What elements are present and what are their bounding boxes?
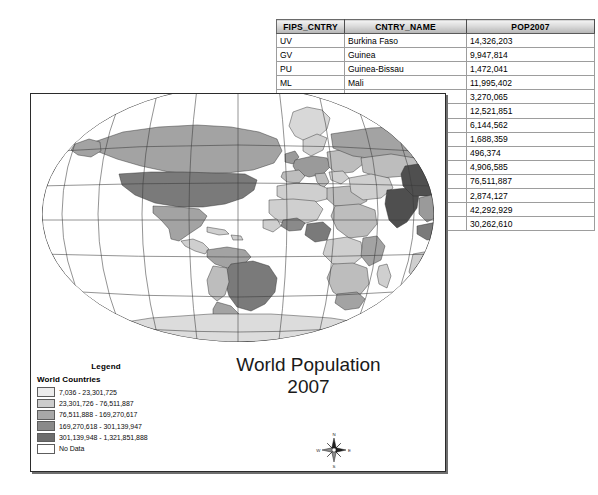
map-title-line-1: World Population — [201, 354, 416, 376]
cell-pop2007[interactable]: 11,995,402 — [467, 76, 595, 90]
cell-pop2007[interactable]: 496,374 — [467, 146, 595, 160]
country-australia — [409, 250, 445, 286]
legend-class-row: 169,270,618 - 301,139,947 — [36, 421, 201, 431]
map-title-line-2: 2007 — [201, 376, 416, 398]
column-header-pop2007[interactable]: POP2007 — [467, 20, 595, 34]
cell-fips-cntry[interactable]: UV — [277, 34, 345, 48]
cell-pop2007[interactable]: 4,906,585 — [467, 160, 595, 174]
cell-fips-cntry[interactable]: GV — [277, 48, 345, 62]
legend-class-row: 76,511,888 - 169,270,617 — [36, 410, 201, 420]
compass-star — [322, 438, 346, 462]
cell-fips-cntry[interactable]: ML — [277, 76, 345, 90]
cell-cntry-name[interactable]: Guinea-Bissau — [345, 62, 467, 76]
legend-label: 7,036 - 23,301,725 — [59, 389, 117, 396]
legend-label: No Data — [59, 445, 84, 452]
legend-class-row: No Data — [36, 444, 201, 454]
legend-swatch — [37, 399, 55, 409]
legend-swatch — [37, 421, 55, 431]
legend-label: 301,139,948 - 1,321,851,888 — [59, 434, 148, 441]
country-southeast-asia — [419, 194, 443, 222]
world-map-graphic[interactable] — [31, 94, 445, 349]
cell-pop2007[interactable]: 9,947,814 — [467, 48, 595, 62]
cell-cntry-name[interactable]: Mali — [345, 76, 467, 90]
table-row[interactable]: UVBurkina Faso14,326,203 — [277, 34, 595, 48]
legend-label: 76,511,888 - 169,270,617 — [59, 411, 137, 418]
country-china — [401, 162, 445, 196]
compass-label-west: W — [316, 448, 321, 453]
legend-class-row: 23,301,726 - 76,511,887 — [36, 398, 201, 408]
legend-label: 23,301,726 - 76,511,887 — [59, 400, 134, 407]
legend-class-row: 7,036 - 23,301,725 — [36, 387, 201, 397]
legend-swatch — [37, 387, 55, 397]
legend-swatch — [37, 444, 55, 454]
cell-pop2007[interactable]: 1,688,359 — [467, 132, 595, 146]
legend-label: 169,270,618 - 301,139,947 — [59, 423, 142, 430]
column-header-cntry-name[interactable]: CNTRY_NAME — [345, 20, 467, 34]
cell-pop2007[interactable]: 6,144,562 — [467, 118, 595, 132]
legend-class-row: 301,139,948 - 1,321,851,888 — [36, 433, 201, 443]
cell-pop2007[interactable]: 14,326,203 — [467, 34, 595, 48]
table-row[interactable]: PUGuinea-Bissau1,472,041 — [277, 62, 595, 76]
cell-pop2007[interactable]: 76,511,887 — [467, 174, 595, 188]
cell-pop2007[interactable]: 42,292,929 — [467, 203, 595, 217]
table-row[interactable]: MLMali11,995,402 — [277, 76, 595, 90]
map-title: World Population 2007 — [201, 354, 416, 398]
country-japan — [435, 166, 445, 184]
legend-swatch — [37, 433, 55, 443]
cell-cntry-name[interactable]: Burkina Faso — [345, 34, 467, 48]
cell-pop2007[interactable]: 12,521,851 — [467, 104, 595, 118]
map-legend: Legend World Countries 7,036 - 23,301,72… — [36, 362, 201, 455]
compass-label-south: S — [333, 464, 336, 469]
legend-layer-name: World Countries — [37, 375, 201, 384]
cell-pop2007[interactable]: 30,262,610 — [467, 217, 595, 231]
cell-pop2007[interactable]: 3,270,065 — [467, 90, 595, 104]
map-layout-frame[interactable]: Legend World Countries 7,036 - 23,301,72… — [30, 93, 446, 472]
compass-rose-icon: N S E W — [314, 430, 354, 470]
table-header-row: FIPS_CNTRY CNTRY_NAME POP2007 — [277, 20, 595, 34]
cell-cntry-name[interactable]: Guinea — [345, 48, 467, 62]
compass-label-north: N — [332, 432, 335, 437]
compass-label-east: E — [348, 448, 351, 453]
table-row[interactable]: GVGuinea9,947,814 — [277, 48, 595, 62]
legend-heading: Legend — [40, 362, 172, 371]
cell-fips-cntry[interactable]: PU — [277, 62, 345, 76]
column-header-fips-cntry[interactable]: FIPS_CNTRY — [277, 20, 345, 34]
cell-pop2007[interactable]: 1,472,041 — [467, 62, 595, 76]
cell-pop2007[interactable]: 2,874,127 — [467, 189, 595, 203]
legend-swatch — [37, 410, 55, 420]
